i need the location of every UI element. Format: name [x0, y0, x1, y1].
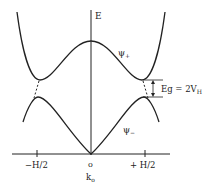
- tick-right-label: + H/2: [130, 160, 156, 170]
- gap-label: Eg = 2VH: [161, 84, 202, 95]
- dashed-right: [143, 81, 148, 98]
- tick-left-label: −H/2: [25, 160, 48, 170]
- gap-arrow-head-down: [151, 93, 155, 97]
- gap-arrow-head-up: [151, 80, 155, 84]
- lower-band-label: ψ−: [123, 125, 135, 136]
- dashed-left: [34, 81, 39, 98]
- k0-label: ko: [86, 172, 95, 183]
- origin-label: o: [88, 160, 93, 169]
- energy-label: E: [95, 11, 102, 21]
- band-diagram: E ψ+ ψ− Eg = 2VH −H/2 o + H/2 ko: [0, 0, 215, 189]
- upper-band-label: ψ+: [118, 48, 130, 59]
